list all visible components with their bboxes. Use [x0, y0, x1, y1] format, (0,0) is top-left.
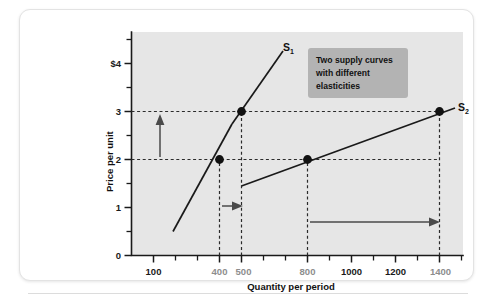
callout-annotation: Two supply curves with different elastic… [308, 48, 408, 98]
curve-label-s1-subscript: 1 [290, 48, 294, 55]
y-axis-title: Price per unit [104, 130, 115, 192]
supply-curve-chart: 0 1 2 3 $4 Price per unit [0, 0, 493, 303]
callout-line-3: elasticities [316, 81, 360, 91]
y-tick-label-3: 3 [116, 106, 121, 117]
x-tick-label-100: 100 [146, 266, 162, 277]
datapoint-s2-1400-3 [435, 107, 444, 116]
x-tick-label-1200: 1200 [385, 266, 406, 277]
x-tick-label-1400: 1400 [430, 266, 451, 277]
y-tick-label-4: $4 [110, 58, 121, 69]
y-axis-ticks [125, 40, 132, 256]
x-axis-tick-labels: 100 400 500 800 1000 1200 1400 [146, 266, 452, 277]
y-tick-label-0: 0 [116, 250, 121, 261]
datapoint-s1-400-2 [215, 155, 224, 164]
y-tick-label-1: 1 [116, 202, 122, 213]
callout-line-2: with different [315, 68, 370, 78]
x-tick-label-1000: 1000 [341, 266, 362, 277]
x-axis-title: Quantity per period [247, 281, 335, 292]
datapoint-s2-800-2 [303, 155, 312, 164]
curve-label-s2: S 2 [458, 101, 469, 115]
curve-label-s2-subscript: 2 [465, 108, 469, 115]
x-tick-label-400: 400 [212, 266, 228, 277]
curve-label-s1-text: S [283, 41, 290, 53]
x-tick-label-800: 800 [300, 266, 316, 277]
chart-svg: 0 1 2 3 $4 Price per unit [0, 0, 493, 303]
x-axis-ticks-major [154, 256, 440, 263]
callout-line-1: Two supply curves [316, 55, 393, 65]
x-tick-label-500: 500 [236, 266, 252, 277]
curve-label-s2-text: S [458, 101, 465, 113]
datapoint-s1-500-3 [237, 107, 246, 116]
y-tick-label-2: 2 [116, 154, 121, 165]
